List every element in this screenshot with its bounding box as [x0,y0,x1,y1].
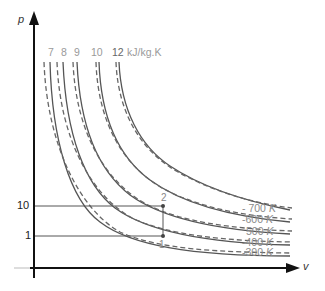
curve-s12-solid [119,62,290,210]
point-2-label: 2 [161,193,167,203]
entropy-label-12: 12 [112,47,124,58]
x-axis-label: v [303,261,309,272]
entropy-label-10: 10 [91,47,103,58]
temp-label-500: 500 K [246,226,273,237]
curve-700k-dashed [116,62,292,208]
point-1-label: 1 [159,240,165,250]
entropy-label-8: 8 [61,47,67,58]
curve-s10-solid [99,62,290,222]
point-1-marker [161,234,165,238]
pressure-tick-10: 10 [17,200,29,211]
curve-600k-dashed [96,62,292,219]
entropy-label-9: 9 [74,47,80,58]
y-axis-arrow-icon [29,11,39,25]
entropy-label-7: 7 [48,47,54,58]
x-axis-arrow-icon [286,263,300,273]
temp-label-700: - 700 K [242,203,276,214]
point-2-marker [161,204,165,208]
y-axis-label: p [18,14,24,25]
temp-label-600: -600 K [242,214,273,225]
pressure-tick-1: 1 [25,230,31,241]
entropy-unit-label: kJ/kg.K [127,47,161,58]
temp-label-300: -300 K [242,247,273,258]
